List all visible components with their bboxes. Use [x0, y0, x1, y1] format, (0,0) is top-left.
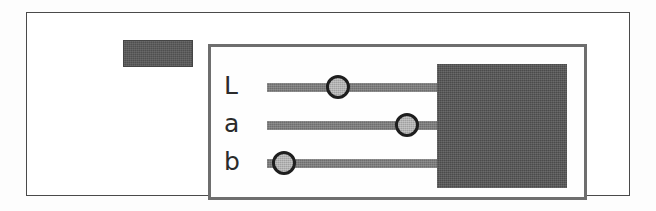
top-color-button[interactable] — [124, 41, 192, 66]
halftone-texture — [275, 154, 293, 172]
figure-outer-frame: L a — [26, 12, 630, 196]
halftone-texture — [437, 64, 567, 188]
screenshot-root: L a — [0, 0, 656, 211]
color-preview-swatch — [437, 64, 567, 188]
slider-thumb-a[interactable] — [395, 113, 419, 137]
slider-thumb-L[interactable] — [326, 75, 350, 99]
halftone-texture — [124, 41, 192, 66]
slider-label-a: a — [224, 109, 256, 143]
halftone-texture — [398, 116, 416, 134]
halftone-texture — [329, 78, 347, 96]
slider-label-b: b — [224, 147, 256, 181]
lab-color-panel: L a — [208, 44, 587, 200]
slider-label-L: L — [224, 71, 256, 105]
slider-thumb-b[interactable] — [272, 151, 296, 175]
